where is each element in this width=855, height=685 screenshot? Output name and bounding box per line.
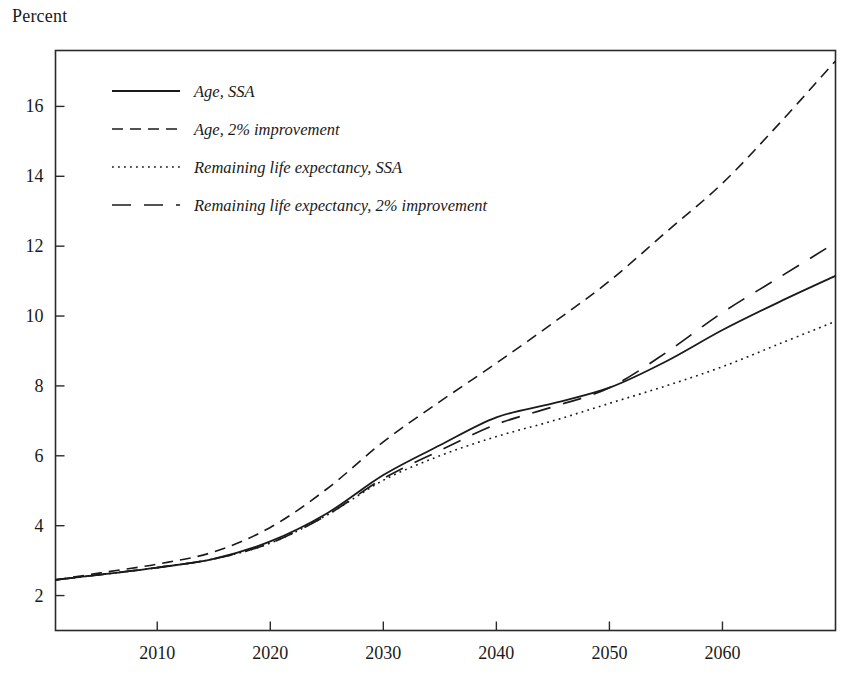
- x-tick-label-2040: 2040: [478, 643, 514, 663]
- y-tick-label-16: 16: [26, 96, 44, 116]
- y-tick-label-12: 12: [26, 236, 44, 256]
- chart-legend: Age, SSAAge, 2% improvementRemaining lif…: [112, 82, 487, 215]
- line-chart-plot: 246810121416 201020202030204020502060 Ag…: [0, 0, 855, 685]
- series-line-2: [56, 321, 836, 580]
- y-tick-label-8: 8: [35, 376, 44, 396]
- x-tick-label-2020: 2020: [252, 643, 288, 663]
- series-line-0: [56, 276, 836, 580]
- plot-frame: [56, 51, 836, 631]
- y-tick-label-10: 10: [26, 306, 44, 326]
- chart-figure: Percent 246810121416 2010202020302040205…: [0, 0, 855, 685]
- x-tick-label-2060: 2060: [704, 643, 740, 663]
- y-axis-tickmarks: [56, 106, 65, 595]
- x-tick-label-2050: 2050: [591, 643, 627, 663]
- legend-label-1: Age, 2% improvement: [193, 120, 340, 139]
- x-axis-tick-labels: 201020202030204020502060: [139, 643, 740, 663]
- series-line-1: [56, 61, 836, 580]
- y-tick-label-2: 2: [35, 586, 44, 606]
- y-tick-label-14: 14: [26, 166, 44, 186]
- x-tick-label-2030: 2030: [365, 643, 401, 663]
- legend-label-2: Remaining life expectancy, SSA: [193, 158, 403, 177]
- legend-label-3: Remaining life expectancy, 2% improvemen…: [193, 196, 487, 215]
- y-tick-label-4: 4: [35, 516, 44, 536]
- y-axis-tick-labels: 246810121416: [26, 96, 44, 605]
- x-axis-tickmarks: [157, 622, 722, 631]
- x-tick-label-2010: 2010: [139, 643, 175, 663]
- y-tick-label-6: 6: [35, 446, 44, 466]
- data-series-group: [56, 61, 836, 580]
- series-line-3: [56, 243, 836, 580]
- legend-label-0: Age, SSA: [193, 82, 255, 101]
